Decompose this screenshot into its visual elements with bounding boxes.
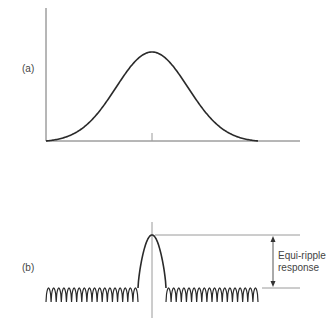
annotation-line-2: response xyxy=(278,262,326,274)
figure: (a) (b) Equi-ripple response xyxy=(0,0,336,328)
equi-ripple-annotation: Equi-ripple response xyxy=(278,250,326,274)
panel-b-label: (b) xyxy=(22,262,34,273)
panel-a-bell-curve xyxy=(46,52,258,141)
annotation-line-1: Equi-ripple xyxy=(278,250,326,262)
diagram-canvas xyxy=(0,0,336,328)
panel-a-label: (a) xyxy=(22,63,34,74)
arrow-down-icon xyxy=(271,281,276,287)
arrow-up-icon xyxy=(271,236,276,242)
panel-b-left-sidelobes xyxy=(46,288,138,302)
panel-b xyxy=(46,222,300,318)
panel-a xyxy=(46,8,300,141)
panel-b-right-sidelobes xyxy=(166,288,258,302)
